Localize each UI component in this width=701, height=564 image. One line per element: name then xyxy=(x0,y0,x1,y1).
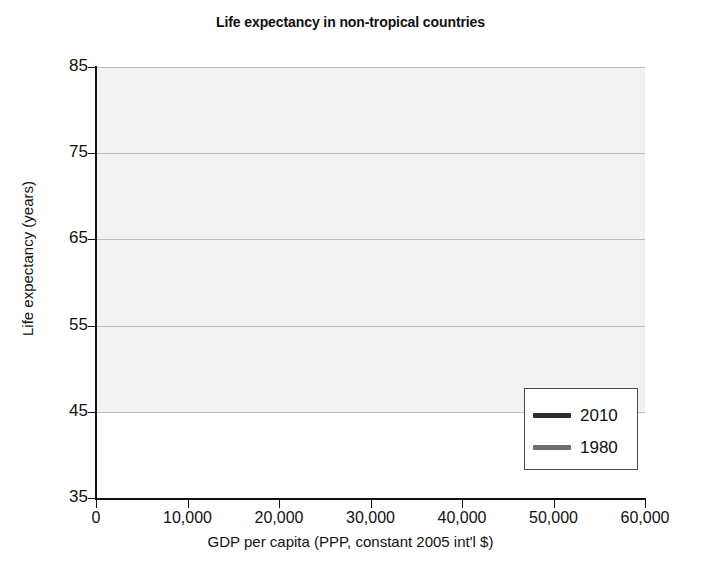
y-tick-label-35: 35 xyxy=(48,487,88,507)
x-axis-label: GDP per capita (PPP, constant 2005 int'l… xyxy=(0,533,701,550)
legend-swatch-2010 xyxy=(533,413,571,418)
legend-item-1980: 1980 xyxy=(533,435,618,459)
y-tick-label-45: 45 xyxy=(48,401,88,421)
x-tick-label-0: 0 xyxy=(92,509,101,527)
y-tick-label-85: 85 xyxy=(48,56,88,76)
x-tick-mark-10000 xyxy=(188,500,189,508)
y-tick-mark-35 xyxy=(88,498,96,499)
y-tick-mark-75 xyxy=(88,153,96,154)
x-tick-label-50000: 50,000 xyxy=(529,509,578,527)
x-tick-label-10000: 10,000 xyxy=(163,509,212,527)
y-tick-label-55: 55 xyxy=(48,315,88,335)
gridline-y-65 xyxy=(96,239,645,240)
gridline-y-85 xyxy=(96,67,645,68)
chart-legend: 2010 1980 xyxy=(524,388,638,470)
gridline-y-55 xyxy=(96,326,645,327)
y-axis-line xyxy=(95,66,97,500)
x-tick-mark-0 xyxy=(96,500,97,508)
y-tick-mark-85 xyxy=(88,67,96,68)
legend-item-2010: 2010 xyxy=(533,403,618,427)
x-tick-mark-60000 xyxy=(645,500,646,508)
x-tick-mark-30000 xyxy=(371,500,372,508)
chart-title: Life expectancy in non-tropical countrie… xyxy=(0,14,701,30)
x-tick-label-40000: 40,000 xyxy=(438,509,487,527)
y-tick-label-65: 65 xyxy=(48,228,88,248)
y-tick-mark-45 xyxy=(88,412,96,413)
x-tick-label-20000: 20,000 xyxy=(255,509,304,527)
x-tick-label-60000: 60,000 xyxy=(621,509,670,527)
legend-label-2010: 2010 xyxy=(580,407,618,424)
y-tick-label-75: 75 xyxy=(48,142,88,162)
chart-figure: Life expectancy in non-tropical countrie… xyxy=(0,0,701,564)
x-tick-mark-40000 xyxy=(462,500,463,508)
y-tick-mark-65 xyxy=(88,239,96,240)
legend-label-1980: 1980 xyxy=(580,439,618,456)
x-tick-mark-50000 xyxy=(554,500,555,508)
y-axis-label: Life expectancy (years) xyxy=(19,144,36,374)
x-tick-label-30000: 30,000 xyxy=(346,509,395,527)
legend-swatch-1980 xyxy=(533,445,571,450)
gridline-y-75 xyxy=(96,153,645,154)
x-tick-mark-20000 xyxy=(279,500,280,508)
y-tick-mark-55 xyxy=(88,326,96,327)
